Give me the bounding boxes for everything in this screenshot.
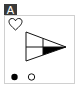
triangle-flag-icon	[26, 32, 66, 61]
heart-outline-icon	[9, 19, 22, 31]
filled-circle-icon	[11, 74, 17, 80]
empty-circle-icon	[28, 74, 34, 80]
diagram-canvas	[0, 0, 80, 88]
